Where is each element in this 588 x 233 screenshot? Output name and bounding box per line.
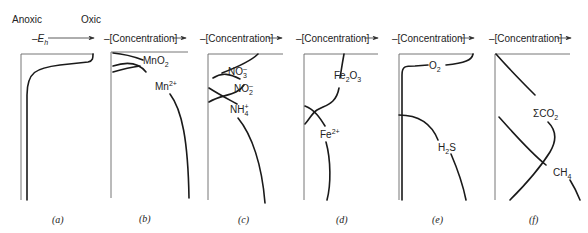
panel-frames <box>21 52 570 200</box>
caption-c: (c) <box>238 214 249 225</box>
panel-f-frame <box>495 54 570 200</box>
caption-d: (d) <box>336 214 348 225</box>
caption-e: (e) <box>432 214 443 225</box>
svg-text:–[Concentration]: –[Concentration] <box>489 33 563 44</box>
o2-lower-curve <box>402 65 428 200</box>
mno2-curve <box>113 53 143 60</box>
nh4-label: NH+4 <box>230 103 249 117</box>
fe2-curve <box>326 142 330 200</box>
axis-title-b: –[Concentration] <box>104 33 186 44</box>
eh-axis-label: –Eh <box>31 33 48 46</box>
eh-curve <box>27 54 93 200</box>
nh4-curve <box>238 118 265 203</box>
axis-title-c: –[Concentration] <box>200 33 282 44</box>
redox-profiles-diagram: –Eh –[Concentration] –[Concentration] –[… <box>0 0 588 233</box>
no3-label: NO–3 <box>228 65 247 79</box>
ch4-upper-curve <box>499 117 546 165</box>
mn-crossing-curve <box>113 66 140 72</box>
axis-title-e: –[Concentration] <box>392 33 474 44</box>
mn2-label: Mn2+ <box>155 80 177 92</box>
ch4-curve <box>570 180 580 200</box>
sco2-lower-curve <box>510 122 555 200</box>
fe2-upper-curve <box>305 106 325 126</box>
fe2o3-curve <box>305 88 339 124</box>
ch4-label: CH4 <box>553 167 571 180</box>
h2s-label: H2S <box>438 142 456 155</box>
o2-label: O2 <box>429 60 441 73</box>
svg-text:–[Concentration]: –[Concentration] <box>392 33 466 44</box>
h2s-upper-curve <box>399 115 438 140</box>
fe2o3-label: Fe2O3 <box>334 70 361 83</box>
caption-b: (b) <box>139 213 151 224</box>
axis-title-f: –[Concentration] <box>489 33 571 44</box>
caption-f: (f) <box>529 214 538 225</box>
fe2-label: Fe2+ <box>320 128 340 140</box>
axis-title-a: –Eh <box>31 33 94 46</box>
panel-b-frame <box>111 52 188 198</box>
h2s-curve <box>451 154 466 200</box>
mno2-label: MnO2 <box>143 55 169 68</box>
sco2-label: ΣCO2 <box>533 108 558 121</box>
no2-label: NO–2 <box>234 82 253 96</box>
svg-text:–[Concentration]: –[Concentration] <box>200 33 274 44</box>
svg-text:–[Concentration]: –[Concentration] <box>296 33 370 44</box>
caption-a: (a) <box>52 214 64 225</box>
svg-text:–[Concentration]: –[Concentration] <box>104 33 178 44</box>
mn2-curve <box>170 94 189 198</box>
panel-e-frame <box>399 54 474 200</box>
o2-curve <box>446 54 473 65</box>
sco2-curve <box>496 54 535 95</box>
axis-title-d: –[Concentration] <box>296 33 378 44</box>
